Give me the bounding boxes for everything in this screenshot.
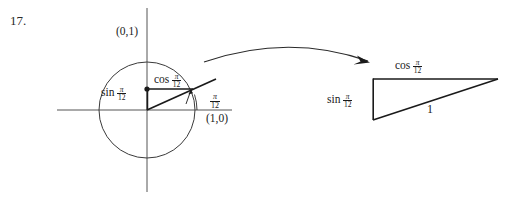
pi-over-twelve-fraction-angle-circle: π 12 (210, 93, 220, 110)
sine-label-triangle: sin π 12 (327, 92, 352, 108)
fraction-numerator: π (119, 86, 125, 94)
sine-label-circle: sin π 12 (101, 85, 126, 101)
pi-over-twelve-fraction-cos-triangle: π 12 (413, 59, 423, 75)
sine-function-name-triangle: sin (327, 94, 340, 106)
fraction-denominator: 12 (210, 101, 220, 110)
cosine-label-circle: cos π 12 (154, 72, 181, 88)
fraction-denominator: 12 (117, 93, 127, 102)
sine-function-name-circle: sin (101, 87, 114, 99)
triangle-hypotenuse-side (373, 79, 498, 120)
pi-over-twelve-fraction-sin-circle: π 12 (117, 86, 127, 102)
unit-circle-right-point-label: (1,0) (206, 113, 228, 125)
cosine-function-name-triangle: cos (395, 60, 410, 72)
fraction-denominator: 12 (172, 80, 182, 89)
problem-number: 17. (10, 14, 26, 27)
transition-arrow-group (204, 47, 370, 64)
angle-measure-label-circle: π 12 (210, 92, 220, 109)
fraction-denominator: 12 (343, 100, 353, 109)
fraction-numerator: π (345, 93, 351, 101)
cosine-function-name-circle: cos (154, 74, 169, 86)
right-triangle-group (373, 79, 498, 121)
unit-circle-group (57, 8, 232, 192)
pi-over-twelve-fraction-sin-triangle: π 12 (343, 93, 353, 109)
unit-circle-top-point-label: (0,1) (116, 26, 138, 38)
pi-over-twelve-fraction-cos-circle: π 12 (172, 73, 182, 89)
figure-container: 17. (0,1) (1,0) cos π 12 sin π 12 π 12 c… (0, 0, 523, 220)
point-on-circle-dot (144, 86, 149, 91)
hypotenuse-length-label: 1 (427, 103, 433, 115)
fraction-numerator: π (212, 93, 218, 101)
cosine-label-triangle: cos π 12 (395, 58, 422, 74)
transition-arrow-curve (204, 47, 368, 62)
fraction-numerator: π (174, 73, 180, 81)
fraction-numerator: π (415, 59, 421, 67)
figure-vector-layer (0, 0, 523, 220)
fraction-denominator: 12 (413, 66, 423, 75)
